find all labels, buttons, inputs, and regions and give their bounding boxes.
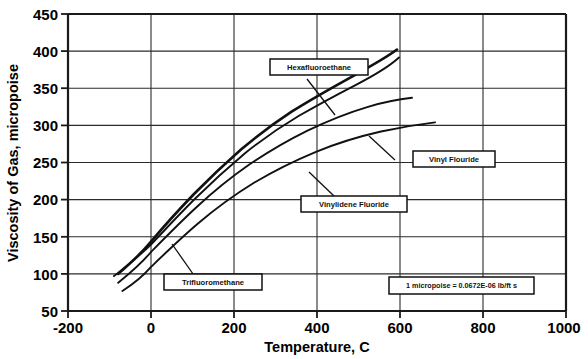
x-axis-title: Temperature, C: [264, 339, 370, 355]
note-label: 1 micropoise = 0.0672E-06 lb/ft s: [406, 281, 517, 290]
viscosity-chart-figure: 450 400 350 300 250 200 150 100 50 -200 …: [0, 0, 588, 359]
y-tick-450: 450: [33, 6, 58, 23]
callout-trifluoromethane[interactable]: Trifluoromethane: [164, 274, 262, 290]
x-tick-800: 800: [470, 319, 495, 336]
y-tick-400: 400: [33, 43, 58, 60]
y-tick-100: 100: [33, 266, 58, 283]
y-tick-200: 200: [33, 191, 58, 208]
x-tick-600: 600: [387, 319, 412, 336]
x-tick-minus200: -200: [53, 319, 83, 336]
chart-canvas: 450 400 350 300 250 200 150 100 50 -200 …: [0, 0, 588, 359]
callout-hexafluoroethane[interactable]: Hexafluoroethane: [270, 59, 368, 75]
y-tick-250: 250: [33, 154, 58, 171]
y-tick-350: 350: [33, 80, 58, 97]
y-axis-title: Viscosity of Gas, micropoise: [5, 64, 21, 262]
y-axis-tick-labels: 450 400 350 300 250 200 150 100 50: [33, 6, 58, 320]
callout-vinylidene-fluoride[interactable]: Vinylidene Fluoride: [301, 196, 407, 212]
x-tick-1000: 1000: [547, 319, 580, 336]
y-tick-50: 50: [41, 303, 58, 320]
callout-label-vinylidene-fluoride: Vinylidene Fluoride: [319, 200, 389, 209]
x-tick-400: 400: [304, 319, 329, 336]
callout-label-trifluoromethane: Trifluoromethane: [182, 278, 244, 287]
x-tick-0: 0: [147, 319, 155, 336]
callout-vinyl-flouride[interactable]: Vinyl Flouride: [413, 151, 495, 167]
y-tick-300: 300: [33, 117, 58, 134]
callout-label-vinyl-flouride: Vinyl Flouride: [429, 155, 479, 164]
unit-conversion-note: 1 micropoise = 0.0672E-06 lb/ft s: [389, 277, 534, 294]
chart-background: [0, 0, 588, 359]
y-tick-150: 150: [33, 229, 58, 246]
callout-label-hexafluoroethane: Hexafluoroethane: [287, 63, 351, 72]
x-tick-200: 200: [221, 319, 246, 336]
